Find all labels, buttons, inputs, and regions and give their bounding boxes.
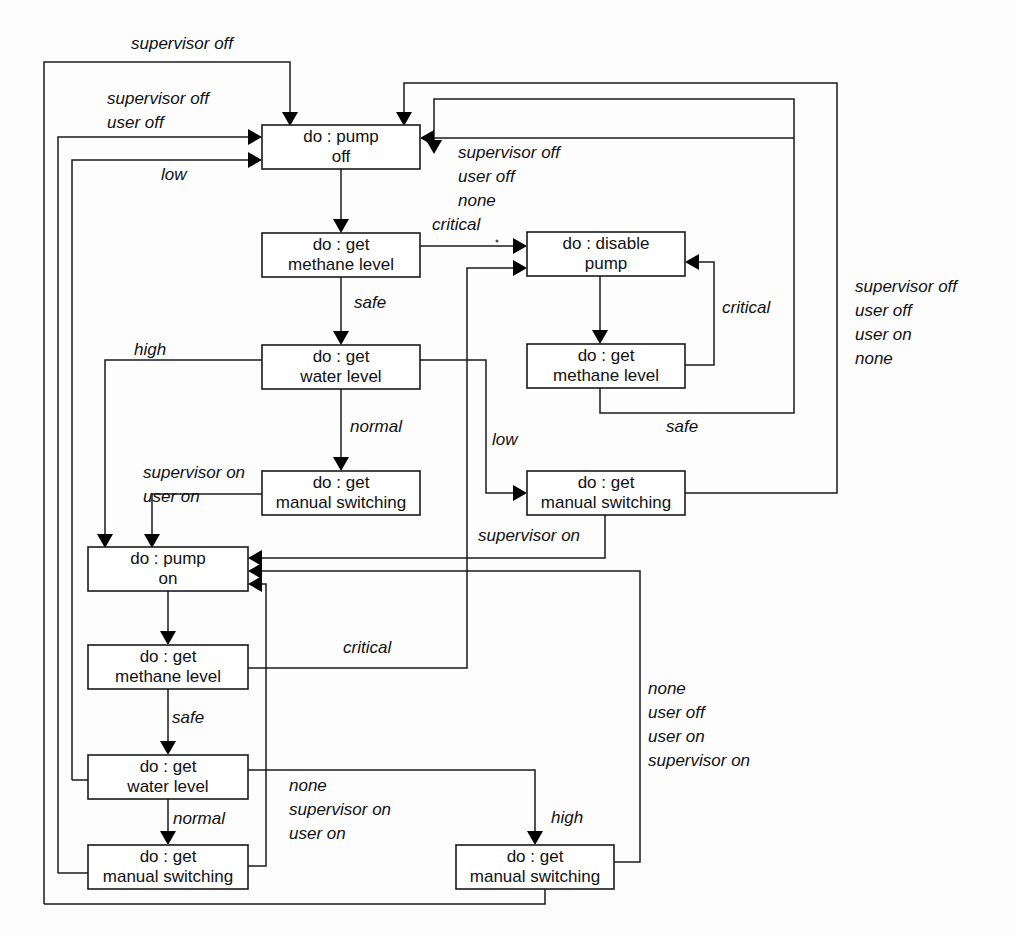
state-diagram-canvas: do : pump off do : get methane level do … <box>0 0 1016 937</box>
state-manual-high[interactable]: do : get manual switching <box>456 845 614 889</box>
label-user-on-right: user on <box>855 325 912 344</box>
state-disable-pump-line2: pump <box>585 254 628 273</box>
arrowhead-supervisor-on-mid <box>248 550 262 566</box>
state-methane-on[interactable]: do : get methane level <box>88 645 248 689</box>
state-pump-off[interactable]: do : pump off <box>262 125 420 169</box>
state-pump-off-line1: do : pump <box>303 127 379 146</box>
edge-high-off <box>105 360 262 534</box>
label-supervisor-on-br: supervisor on <box>648 751 750 770</box>
state-manual-low-line2: manual switching <box>541 493 671 512</box>
label-safe-off: safe <box>354 293 386 312</box>
arrowhead-low-to-off <box>248 152 262 168</box>
edge-labels: supervisor off supervisor off user off l… <box>107 34 959 843</box>
label-none-3: none <box>458 191 496 210</box>
state-water-on-line1: do : get <box>140 757 197 776</box>
label-user-on-br: user on <box>648 727 705 746</box>
arrowhead-off-to-methane <box>333 219 349 233</box>
label-high-off: high <box>134 340 166 359</box>
state-pump-on-line1: do : pump <box>130 549 206 568</box>
state-manual-low-line1: do : get <box>578 473 635 492</box>
state-water-off-line1: do : get <box>313 347 370 366</box>
label-user-on-bottom: user on <box>289 824 346 843</box>
label-safe-disable: safe <box>666 417 698 436</box>
label-low-right: low <box>492 430 519 449</box>
label-supervisor-on-bottom: supervisor on <box>289 800 391 819</box>
state-manual-on-line1: do : get <box>140 847 197 866</box>
label-none-bottom: none <box>289 776 327 795</box>
state-methane-on-line2: methane level <box>115 667 221 686</box>
arrowhead-safe-off <box>333 331 349 345</box>
state-water-off-line2: water level <box>299 367 381 386</box>
state-methane-off[interactable]: do : get methane level <box>262 233 420 277</box>
label-supervisor-off-top: supervisor off <box>131 34 235 53</box>
arrowhead-none-bottom <box>248 576 262 592</box>
label-user-off-right: user off <box>855 301 914 320</box>
label-supervisor-off-3: supervisor off <box>458 143 562 162</box>
label-supervisor-off-2: supervisor off <box>107 89 211 108</box>
arrowhead-critical-off <box>513 238 527 254</box>
state-water-off[interactable]: do : get water level <box>262 345 420 389</box>
label-supervisor-on-2: supervisor on <box>143 463 245 482</box>
arrowhead-critical-on <box>513 260 527 276</box>
edge-critical-disable <box>685 262 714 365</box>
state-manual-on-line2: manual switching <box>103 867 233 886</box>
state-manual-high-line2: manual switching <box>470 867 600 886</box>
arrowhead-supervisor-off-user-off <box>248 129 262 145</box>
arrowhead-supervisor-on-user-on <box>144 534 160 548</box>
state-methane-on-line1: do : get <box>140 647 197 666</box>
state-water-on-line2: water level <box>126 777 208 796</box>
label-supervisor-off-right: supervisor off <box>855 277 959 296</box>
state-pump-on[interactable]: do : pump on <box>88 547 248 591</box>
edge-none-bottom <box>248 584 266 866</box>
label-critical-disable: critical <box>722 298 771 317</box>
arrowhead-low-right <box>513 485 527 501</box>
label-none-right: none <box>855 349 893 368</box>
state-manual-off-line1: do : get <box>313 473 370 492</box>
ink-speck <box>496 240 499 243</box>
label-user-off-3: user off <box>458 167 517 186</box>
arrowhead-safe-on <box>160 741 176 755</box>
edge-bottom-return <box>44 888 545 904</box>
state-manual-off-line2: manual switching <box>276 493 406 512</box>
arrowhead-into-off-right-upper <box>420 130 434 146</box>
arrowhead-disable-to-methane <box>592 330 608 344</box>
state-methane-disable-line1: do : get <box>578 346 635 365</box>
arrowhead-normal-on <box>160 831 176 845</box>
state-manual-low[interactable]: do : get manual switching <box>527 471 685 515</box>
state-pump-on-line2: on <box>159 569 178 588</box>
state-methane-off-line1: do : get <box>313 235 370 254</box>
state-manual-off[interactable]: do : get manual switching <box>262 471 420 515</box>
label-user-off-2: user off <box>107 113 166 132</box>
label-normal-on: normal <box>173 809 226 828</box>
arrowhead-on-to-methane <box>160 631 176 645</box>
label-user-off-br: user off <box>648 703 707 722</box>
state-manual-on[interactable]: do : get manual switching <box>88 845 248 889</box>
state-pump-off-line2: off <box>332 147 351 166</box>
arrowhead-none-br <box>248 563 262 579</box>
label-critical-off: critical <box>432 215 481 234</box>
label-none-br: none <box>648 679 686 698</box>
arrowhead-high-off <box>97 534 113 548</box>
label-user-on-2: user on <box>143 487 200 506</box>
label-critical-on: critical <box>343 638 392 657</box>
arrowhead-normal-off <box>333 457 349 471</box>
label-safe-on: safe <box>172 708 204 727</box>
edge-critical-on <box>248 268 513 668</box>
state-water-on[interactable]: do : get water level <box>88 755 248 799</box>
arrowhead-supervisor-off-top <box>282 112 298 126</box>
state-disable-pump-line1: do : disable <box>563 234 650 253</box>
state-methane-disable[interactable]: do : get methane level <box>527 344 685 388</box>
state-disable-pump[interactable]: do : disable pump <box>527 232 685 276</box>
arrowhead-critical-disable <box>685 254 699 270</box>
state-manual-high-line1: do : get <box>507 847 564 866</box>
state-methane-disable-line2: methane level <box>553 366 659 385</box>
label-low-to-off: low <box>161 165 188 184</box>
label-high-br: high <box>551 808 583 827</box>
state-methane-off-line2: methane level <box>288 255 394 274</box>
label-normal-off: normal <box>350 417 403 436</box>
state-diagram-svg: do : pump off do : get methane level do … <box>0 0 1016 937</box>
arrowhead-right-loop-down <box>396 112 412 126</box>
label-supervisor-on-mid: supervisor on <box>478 526 580 545</box>
arrowhead-high-br <box>527 831 543 845</box>
state-boxes: do : pump off do : get methane level do … <box>88 125 685 889</box>
